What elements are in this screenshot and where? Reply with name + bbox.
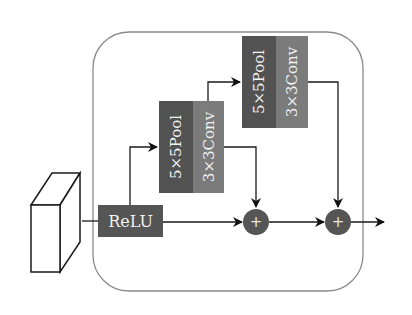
- block2: 5×5Pool 3×3Conv: [242, 36, 308, 128]
- block1-pool-label: 5×5Pool: [167, 115, 185, 179]
- sum-node-1: +: [243, 209, 269, 235]
- module-frame: [93, 32, 363, 291]
- block1: 5×5Pool 3×3Conv: [159, 101, 224, 193]
- residual-pooling-diagram: ReLU 5×5Pool 3×3Conv 5×5Pool 3×3Conv + +: [0, 0, 412, 315]
- input-tensor-cuboid: [31, 173, 80, 272]
- relu-block: ReLU: [98, 205, 163, 237]
- block1-conv-label: 3×3Conv: [200, 111, 218, 182]
- block2-conv-label: 3×3Conv: [283, 46, 301, 117]
- sum-node-2: +: [325, 209, 351, 235]
- branch-to-block1: [130, 147, 157, 205]
- branch-to-block2: [208, 82, 240, 101]
- block1-to-sum1: [224, 147, 256, 207]
- block2-pool-label: 5×5Pool: [250, 50, 268, 114]
- plus-icon: +: [250, 213, 263, 231]
- relu-label: ReLU: [108, 212, 153, 231]
- block2-to-sum2: [308, 82, 338, 207]
- plus-icon: +: [332, 213, 345, 231]
